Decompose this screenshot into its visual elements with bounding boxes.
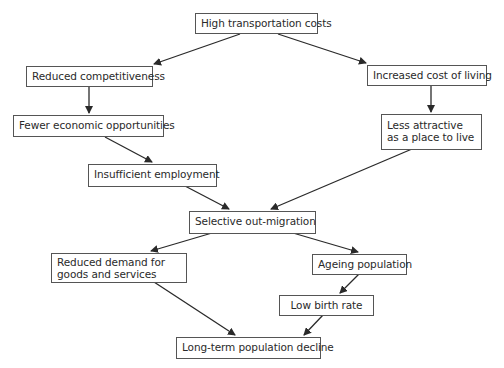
node-selective-out-migration: Selective out-migration bbox=[189, 211, 316, 234]
edge-layer bbox=[0, 0, 504, 368]
edge-selective-out-migration-to-ageing-population bbox=[293, 233, 358, 252]
edge-low-birth-rate-to-long-term-decline bbox=[304, 315, 323, 335]
node-label: Less attractive as a place to live bbox=[387, 119, 474, 143]
edge-fewer-opportunities-to-insufficient-employment bbox=[105, 137, 152, 162]
node-label: Reduced competitiveness bbox=[32, 70, 165, 82]
node-label: Long-term population decline bbox=[182, 341, 334, 353]
node-reduced-competitiveness: Reduced competitiveness bbox=[26, 66, 153, 87]
edge-ageing-population-to-low-birth-rate bbox=[340, 274, 359, 293]
node-long-term-population-decline: Long-term population decline bbox=[176, 337, 321, 359]
node-label: Low birth rate bbox=[291, 299, 363, 311]
node-increased-cost-of-living: Increased cost of living bbox=[367, 65, 487, 86]
edge-reduced-demand-to-long-term-decline bbox=[154, 282, 235, 335]
node-label: Selective out-migration bbox=[195, 215, 316, 227]
node-label: Fewer economic opportunities bbox=[19, 119, 175, 131]
edge-high-costs-to-reduced-competitiveness bbox=[154, 34, 240, 64]
node-low-birth-rate: Low birth rate bbox=[279, 295, 374, 316]
edge-insufficient-employment-to-selective-out-migration bbox=[185, 186, 229, 209]
node-label: Reduced demand for goods and services bbox=[57, 256, 165, 280]
flowchart-diagram: High transportation costs Reduced compet… bbox=[0, 0, 504, 368]
node-insufficient-employment: Insufficient employment bbox=[88, 164, 217, 187]
node-label: Insufficient employment bbox=[94, 168, 220, 180]
node-ageing-population: Ageing population bbox=[312, 254, 407, 275]
node-fewer-economic-opportunities: Fewer economic opportunities bbox=[13, 115, 164, 137]
edge-high-costs-to-increased-cost-of-living bbox=[278, 34, 366, 63]
edge-less-attractive-to-selective-out-migration bbox=[271, 149, 412, 209]
node-less-attractive-place-to-live: Less attractive as a place to live bbox=[381, 114, 482, 150]
node-label: Increased cost of living bbox=[373, 69, 492, 81]
node-reduced-demand-goods-services: Reduced demand for goods and services bbox=[51, 253, 187, 283]
node-label: High transportation costs bbox=[201, 17, 332, 29]
edge-selective-out-migration-to-reduced-demand bbox=[151, 233, 212, 251]
node-high-transportation-costs: High transportation costs bbox=[195, 13, 318, 34]
node-label: Ageing population bbox=[318, 258, 412, 270]
